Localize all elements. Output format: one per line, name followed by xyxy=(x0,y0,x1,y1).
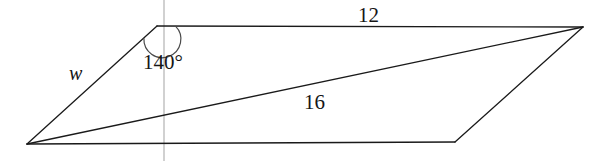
geometry-figure: 12 16 140° w xyxy=(0,0,601,161)
angle-measure-label-140: 140° xyxy=(143,52,183,73)
diagonal-length-label-16: 16 xyxy=(304,92,325,113)
side-length-label-w: w xyxy=(69,63,82,83)
figure-canvas xyxy=(0,0,601,161)
left-edge-line xyxy=(27,26,157,144)
diagonal-line xyxy=(27,27,583,144)
bottom-edge-line xyxy=(27,142,455,144)
right-edge-line xyxy=(455,27,583,142)
side-length-label-12: 12 xyxy=(358,5,379,26)
